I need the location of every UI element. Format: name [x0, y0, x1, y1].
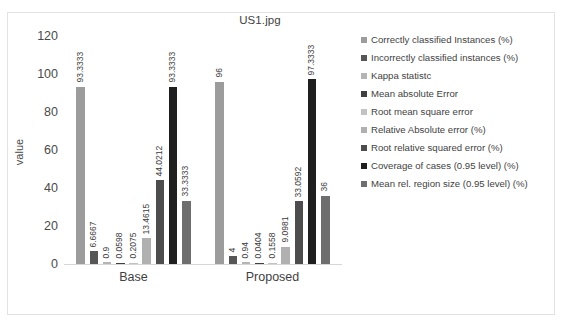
bar-value-label: 0.2075	[125, 233, 134, 259]
legend-swatch-icon	[361, 163, 367, 169]
legend-label: Kappa statistc	[371, 70, 431, 82]
bar-value-label: 44.0212	[151, 146, 160, 177]
y-axis-tick-60: 60	[44, 143, 58, 157]
legend-label: Relative Absolute error (%)	[371, 124, 486, 136]
plot-container: value 120100806040200 93.33336.66670.90.…	[0, 0, 355, 303]
bar-value-label: 33.3333	[178, 166, 187, 197]
legend-label: Mean rel. region size (0.95 level) (%)	[371, 178, 528, 190]
bar: 97.3333	[308, 79, 317, 264]
legend-label: Correctly classified Instances (%)	[371, 34, 513, 46]
bar: 9.0981	[281, 247, 290, 264]
bar-value-label: 13.4615	[138, 204, 147, 235]
bar: 93.3333	[169, 87, 178, 264]
bar-value-label: 96	[211, 68, 220, 77]
bar: 13.4615	[142, 238, 151, 264]
legend-swatch-icon	[361, 109, 367, 115]
bar: 6.6667	[90, 251, 99, 264]
legend-label: Incorrectly classified instances (%)	[371, 52, 518, 64]
legend-label: Root mean square error	[371, 106, 473, 118]
bar: 4	[229, 256, 238, 264]
bar-value-label: 33.0592	[290, 166, 299, 197]
bar: 36	[321, 196, 330, 264]
bar-value-label: 9.0981	[277, 217, 286, 243]
y-axis-tick-100: 100	[37, 67, 58, 81]
legend-item[interactable]: Mean absolute Error	[361, 88, 555, 100]
legend-item[interactable]: Correctly classified Instances (%)	[361, 34, 555, 46]
y-axis-tick-0: 0	[51, 257, 58, 271]
legend-label: Coverage of cases (0.95 level) (%)	[371, 160, 519, 172]
legend-item[interactable]: Coverage of cases (0.95 level) (%)	[361, 160, 555, 172]
x-axis-category-label: Proposed	[203, 270, 342, 284]
bar-value-label: 97.3333	[304, 44, 313, 75]
x-axis-line	[64, 264, 342, 265]
legend-swatch-icon	[361, 127, 367, 133]
bar: 33.3333	[182, 201, 191, 264]
legend-item[interactable]: Relative Absolute error (%)	[361, 124, 555, 136]
bar: 96	[215, 82, 224, 264]
y-axis-tick-40: 40	[44, 181, 58, 195]
bar-value-label: 6.6667	[85, 221, 94, 247]
legend-item[interactable]: Root relative squared error (%)	[361, 142, 555, 154]
legend-item[interactable]: Incorrectly classified instances (%)	[361, 52, 555, 64]
bar-value-label: 4	[224, 248, 233, 253]
bar-value-label: 0.9	[99, 246, 108, 258]
legend-swatch-icon	[361, 55, 367, 61]
bar-value-label: 93.3333	[165, 52, 174, 83]
bar: 44.0212	[156, 180, 165, 264]
bar: 33.0592	[295, 201, 304, 264]
chart-legend: Correctly classified Instances (%)Incorr…	[361, 34, 555, 196]
legend-swatch-icon	[361, 181, 367, 187]
y-axis-tick-120: 120	[37, 29, 58, 43]
bar-value-label: 0.0404	[251, 233, 260, 259]
bar-value-label: 0.0598	[112, 233, 121, 259]
legend-item[interactable]: Root mean square error	[361, 106, 555, 118]
legend-label: Root relative squared error (%)	[371, 142, 503, 154]
legend-item[interactable]: Mean rel. region size (0.95 level) (%)	[361, 178, 555, 190]
y-axis-ticks: 120100806040200	[24, 36, 62, 264]
bar: 93.3333	[76, 87, 85, 264]
legend-swatch-icon	[361, 145, 367, 151]
y-axis-tick-20: 20	[44, 219, 58, 233]
legend-item[interactable]: Kappa statistc	[361, 70, 555, 82]
bar-value-label: 36	[317, 182, 326, 191]
y-axis-tick-80: 80	[44, 105, 58, 119]
legend-swatch-icon	[361, 37, 367, 43]
bar-value-label: 0.1558	[264, 233, 273, 259]
bar-value-label: 0.94	[238, 242, 247, 259]
bar-value-label: 93.3333	[72, 52, 81, 83]
legend-label: Mean absolute Error	[371, 88, 458, 100]
legend-swatch-icon	[361, 91, 367, 97]
plot-area: 93.33336.66670.90.05980.207513.461544.02…	[64, 36, 342, 264]
legend-swatch-icon	[361, 73, 367, 79]
x-axis-category-label: Base	[64, 270, 203, 284]
